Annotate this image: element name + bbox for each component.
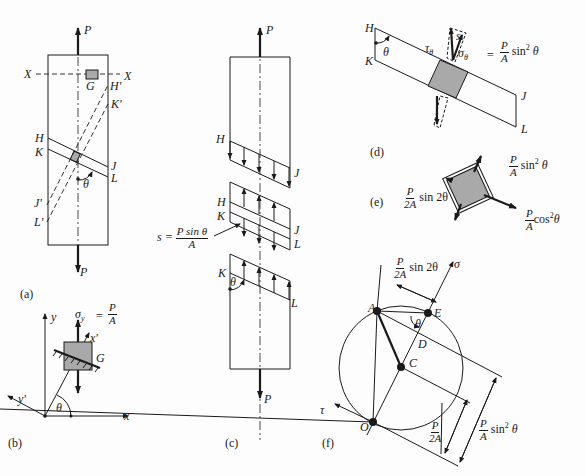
a-k: K [35,146,43,158]
a-load-bottom: P [80,266,87,278]
a-h: H [35,132,44,144]
a-l: L [111,172,118,184]
f-point-c: C [409,357,417,369]
b-theta: θ [56,402,62,414]
diagram-svg [0,0,585,476]
d-k: K [365,55,373,67]
e-right-stress: PAcos2θ [525,208,560,232]
d-sigma: σθ [458,47,468,62]
e-top-stress: PA sin2 θ [509,154,548,178]
f-point-e: E [434,307,441,319]
f-theta: θ [415,318,421,330]
panel-b-element [8,314,128,418]
d-s: s [456,30,461,42]
a-j-prime: J' [34,197,42,209]
f-point-d: D [418,338,427,350]
figure-canvas: P P X X G H' K' H K J L θ J' L' (a) y σy… [0,0,585,476]
panel-c-free-bodies [214,28,290,440]
f-dim-shear: P2A sin 2θ [394,256,438,280]
d-j: J [521,90,526,102]
c-theta: θ [230,276,236,288]
d-normal-stress: PA sin2 θ [500,40,539,64]
b-x-axis: x [124,410,129,422]
caption-f: (f) [322,437,334,449]
panel-e-element [443,156,516,220]
f-sigma-axis: σ [454,258,460,270]
c-shear-resultant: s = P sin θA [157,226,208,250]
b-stress-fraction: PA [108,302,117,326]
d-equals: = [487,49,494,61]
f-dim-normal: PA sin2 θ [479,418,518,442]
panel-a-bar [36,28,120,272]
f-point-a: A [368,302,375,314]
b-x-prime: x' [90,332,98,344]
f-tau-axis: τ [320,404,324,416]
c-h1: H [216,133,225,145]
caption-b: (b) [8,437,22,449]
c-j1: J [294,167,299,179]
c-l3: L [291,297,298,309]
b-equals: = [96,310,103,322]
c-load-top: P [266,24,273,36]
c-k2: K [217,210,225,222]
b-sigma-y: σy [75,308,84,323]
e-shear-stress: P2A sin 2θ [404,186,448,210]
a-theta: θ [83,178,89,190]
caption-a: (a) [20,288,33,300]
caption-c: (c) [225,437,238,449]
b-y-axis: y [51,311,56,323]
c-load-bottom: P [264,393,271,405]
a-x-right: X [124,70,131,82]
caption-e: (e) [370,196,383,208]
b-y-prime: y' [18,393,26,405]
d-h: H [365,22,374,34]
b-element-g: G [96,352,105,364]
f-dim-center: P2A [429,420,441,444]
a-element-g: G [86,80,95,92]
a-load-top: P [84,24,91,36]
c-l2: L [294,238,301,250]
a-k-prime: K' [111,98,122,110]
panel-d-slab [374,28,516,128]
c-j2: J [294,224,299,236]
c-h2: H [217,196,226,208]
d-l: L [521,123,528,135]
d-tau: τθ [425,42,433,57]
f-point-o: O [360,421,369,433]
a-l-prime: L' [34,216,43,228]
a-h-prime: H' [110,80,121,92]
caption-d: (d) [370,146,384,158]
d-theta: θ [383,46,389,58]
c-k3: K [218,267,226,279]
a-x-left: X [24,68,31,80]
